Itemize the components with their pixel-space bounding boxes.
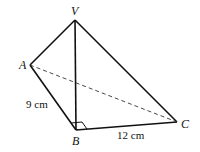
- pyramid-diagram: V A B C 9 cm 12 cm: [0, 0, 200, 152]
- measurement-AB: 9 cm: [26, 98, 48, 110]
- vertex-label-V: V: [71, 4, 80, 18]
- vertex-label-C: C: [181, 117, 190, 131]
- edge-VB: [75, 20, 76, 130]
- edge-AC-hidden: [30, 65, 177, 122]
- measurement-BC: 12 cm: [117, 129, 145, 141]
- vertex-label-B: B: [72, 134, 80, 148]
- vertex-label-A: A: [18, 58, 27, 72]
- edge-VC: [75, 20, 177, 122]
- edge-VA: [30, 20, 75, 65]
